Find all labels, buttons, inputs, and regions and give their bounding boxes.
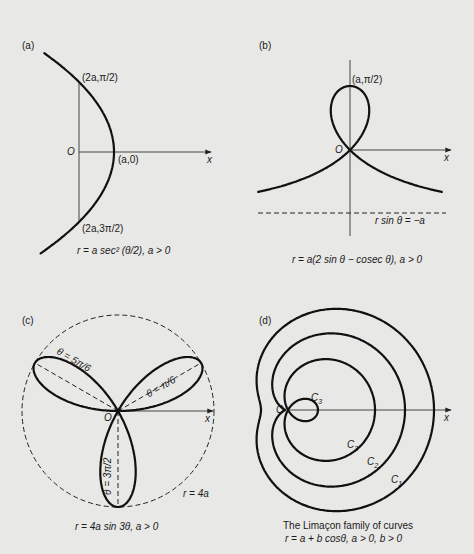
panel-d-c1-label: C1 [391,475,402,487]
panel-d-plot [257,309,451,511]
panel-c-origin-label: O [104,413,112,423]
polar-curves-figure [0,0,474,554]
panel-b-origin-label: O [335,145,343,155]
panel-b-asymptote-label: r sin θ = −a [375,216,425,226]
panel-d-caption-equation: r = a + b cosθ, a > 0, b > 0 [285,532,402,545]
panel-b-tag: (b) [259,40,271,51]
panel-b-x-label: x [444,153,449,163]
panel-a-bottom-point-label: (2a,3π/2) [82,224,123,234]
panel-d-caption-title: The Limaçon family of curves [283,519,413,532]
panel-a-caption: r = a sec² (θ/2), a > 0 [77,244,170,257]
panel-c-plot [22,315,214,507]
panel-a-vertex-label: (a,0) [118,155,139,165]
panel-c-tag: (c) [22,315,34,326]
panel-c-petal-down-label: θ = 3π/2 [103,458,113,495]
panel-b-plot [258,60,451,236]
panel-b-caption: r = a(2 sin θ − cosec θ), a > 0 [292,253,422,266]
panel-c-caption: r = 4a sin 3θ, a > 0 [75,520,158,533]
panel-a-origin-label: O [67,147,75,157]
panel-d-tag: (d) [259,315,271,326]
panel-d-c2-label: C2 [367,457,378,469]
panel-c-x-label: x [205,414,210,424]
panel-d-origin-label: O [276,405,284,415]
panel-d-c3-loop-label: C3 [311,393,322,405]
panel-d-c3-label: C3 [347,440,358,452]
figure: (a) (2a,π/2) O (a,0) x (2a,3π/2) r = a s… [0,0,474,554]
panel-a-x-label: x [207,155,212,165]
panel-a-top-point-label: (2a,π/2) [82,73,118,83]
panel-d-x-label: x [444,413,449,423]
panel-a-tag: (a) [22,40,34,51]
panel-c-circle-label: r = 4a [183,489,209,499]
panel-b-top-point-label: (a,π/2) [352,75,382,85]
